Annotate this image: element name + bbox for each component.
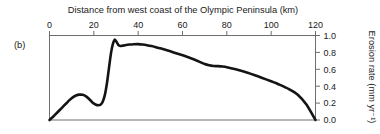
x-tick-label: 20 [89,20,99,30]
x-tick-label: 80 [222,20,232,30]
y-axis-ticks [316,36,321,121]
y-tick-label: 0.2 [324,98,337,108]
x-tick-label: 40 [133,20,143,30]
figure-panel-b: Distance from west coast of the Olympic … [0,0,380,134]
y-tick-label: 0.6 [324,65,337,75]
y-tick-label: 0.4 [324,82,337,92]
x-tick-label: 100 [264,20,279,30]
y-tick-label: 1.0 [324,31,337,41]
erosion-rate-chart: Distance from west coast of the Olympic … [0,0,380,134]
x-tick-label: 60 [177,20,187,30]
x-axis-ticks [50,31,316,36]
x-tick-label: 120 [308,20,323,30]
erosion-rate-curve [50,40,316,120]
y-axis-title: Erosion rate (mm yr⁻¹) [367,31,377,124]
x-axis-tick-labels: 020406080100120 [47,20,323,30]
y-axis-tick-labels: 0.00.20.40.60.81.0 [324,31,337,126]
plot-frame [50,36,316,121]
y-tick-label: 0.8 [324,48,337,58]
x-tick-label: 0 [47,20,52,30]
y-tick-label: 0.0 [324,115,337,125]
x-axis-title: Distance from west coast of the Olympic … [68,5,298,15]
panel-label: (b) [14,40,25,50]
